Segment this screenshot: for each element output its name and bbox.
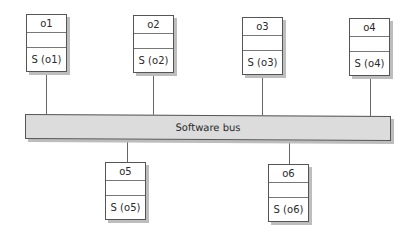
- object-service: S (o1): [27, 48, 66, 71]
- object-o6: o6 S (o6): [268, 164, 309, 222]
- object-name: o5: [106, 163, 145, 181]
- object-name: o1: [27, 15, 66, 33]
- object-attributes: [269, 183, 308, 198]
- object-service: S (o4): [350, 52, 389, 75]
- software-bus-label: Software bus: [175, 122, 240, 133]
- connector-o5: [127, 140, 128, 162]
- object-attributes: [27, 33, 66, 48]
- object-attributes: [243, 36, 282, 51]
- software-bus-diagram: Software bus o1 S (o1) o2 S (o2) o3 S (o…: [0, 0, 413, 237]
- object-name: o2: [134, 16, 173, 34]
- object-o4: o4 S (o4): [349, 18, 390, 76]
- connector-o2: [153, 74, 154, 115]
- object-o3: o3 S (o3): [242, 17, 283, 75]
- connector-o6: [289, 141, 290, 164]
- object-service: S (o5): [106, 196, 145, 219]
- object-name: o6: [269, 165, 308, 183]
- object-service: S (o2): [134, 49, 173, 72]
- object-o2: o2 S (o2): [133, 15, 174, 73]
- object-attributes: [134, 34, 173, 49]
- object-service: S (o6): [269, 198, 308, 221]
- object-name: o3: [243, 18, 282, 36]
- object-o1: o1 S (o1): [26, 14, 67, 72]
- object-o5: o5 S (o5): [105, 162, 146, 220]
- object-service: S (o3): [243, 51, 282, 74]
- object-name: o4: [350, 19, 389, 37]
- connector-o4: [370, 77, 371, 117]
- software-bus: Software bus: [25, 114, 391, 141]
- connector-o1: [46, 73, 47, 115]
- object-attributes: [106, 181, 145, 196]
- object-attributes: [350, 37, 389, 52]
- connector-o3: [262, 76, 263, 116]
